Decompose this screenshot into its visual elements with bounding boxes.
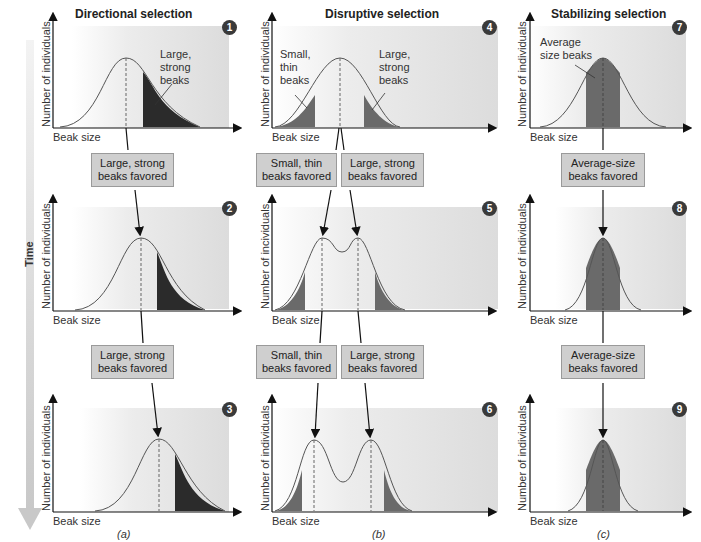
annotation-large-strong-beaks: Large, strong beaks [160, 48, 191, 87]
box-line: beaks favored [257, 362, 336, 375]
caption-b: (b) [372, 528, 385, 540]
caption-c: (c) [597, 528, 610, 540]
selection-diagram [0, 0, 701, 542]
panel-6 [270, 396, 498, 512]
y-axis-label: Number of individuals [40, 21, 52, 127]
box-line: Large, strong [342, 349, 423, 362]
panel-number-badge: 2 [222, 201, 237, 216]
annotation-large-strong-beaks: Large, strong beaks [379, 48, 410, 87]
x-axis-label: Beak size [530, 314, 578, 326]
box-line: beaks favored [92, 170, 173, 183]
annotation-line: thin [280, 61, 311, 74]
y-axis-label: Number of incividuals [259, 204, 271, 309]
annotation-line: beaks [160, 74, 191, 87]
favored-box: Large, strong beaks favored [341, 345, 424, 379]
annotation-line: strong [379, 61, 410, 74]
panel-number-badge: 1 [222, 20, 237, 35]
panel-number-badge: 8 [672, 201, 687, 216]
time-label: Time [23, 241, 35, 266]
title-directional-selection: Directional selection [75, 7, 192, 21]
y-axis-label: Number of individuals [40, 405, 52, 511]
y-axis-label: Number of individuals [516, 21, 528, 127]
box-line: Large, strong [92, 349, 173, 362]
annotation-line: Average [540, 36, 592, 49]
title-disruptive-selection: Disruptive selection [325, 7, 439, 21]
favored-box: Average-size beaks favored [561, 345, 645, 379]
y-axis-label: Number of individuals [516, 203, 528, 309]
box-line: Large, strong [92, 157, 173, 170]
panel-9 [530, 396, 690, 512]
title-stabilizing-selection: Stabilizing selection [551, 7, 666, 21]
annotation-line: beaks [379, 74, 410, 87]
x-axis-label: Beak size [530, 515, 578, 527]
panel-number-badge: 6 [482, 402, 497, 417]
box-line: beaks favored [562, 170, 644, 183]
favored-box: Small, thin beaks favored [256, 345, 337, 379]
panel-number-badge: 3 [222, 402, 237, 417]
box-line: beaks favored [562, 362, 644, 375]
box-line: Average-size [562, 349, 644, 362]
favored-box: Large, strong beaks favored [91, 153, 174, 187]
favored-box: Large, strong beaks favored [341, 153, 424, 187]
favored-box: Average-size beaks favored [561, 153, 645, 187]
annotation-small-thin-beaks: Small, thin beaks [280, 48, 311, 87]
y-axis-label: Number of individuals [40, 203, 52, 309]
panel-number-badge: 9 [672, 402, 687, 417]
panel-8 [530, 196, 690, 311]
panel-2 [53, 196, 240, 311]
favored-box: Large, strong beaks favored [91, 345, 174, 379]
caption-a: (a) [117, 528, 130, 540]
annotation-line: size beaks [540, 49, 592, 62]
box-line: beaks favored [257, 170, 336, 183]
x-axis-label: Beak size [53, 131, 101, 143]
x-axis-label: Beak size [53, 314, 101, 326]
annotation-line: beaks [280, 74, 311, 87]
x-axis-label: Beak size [53, 515, 101, 527]
panel-5 [270, 196, 498, 311]
annotation-average-size-beaks: Average size beaks [540, 36, 592, 62]
x-axis-label: Beak size [272, 131, 320, 143]
box-line: Large, strong [342, 157, 423, 170]
panel-number-badge: 5 [482, 201, 497, 216]
panel-1 [53, 14, 240, 128]
annotation-line: Small, [280, 48, 311, 61]
y-axis-label: Number of individuals [259, 21, 271, 127]
x-axis-label: Beak size [272, 314, 320, 326]
y-axis-label: Number of individuals [516, 405, 528, 511]
panel-number-badge: 7 [672, 20, 687, 35]
box-line: beaks favored [92, 362, 173, 375]
box-line: beaks favored [342, 170, 423, 183]
panel-7 [528, 14, 690, 128]
x-axis-label: Beak size [272, 515, 320, 527]
y-axis-label: Number of individuals [259, 405, 271, 511]
box-line: Small, thin [257, 157, 336, 170]
panel-number-badge: 4 [482, 20, 497, 35]
box-line: Small, thin [257, 349, 336, 362]
time-arrow [18, 40, 42, 530]
box-line: beaks favored [342, 362, 423, 375]
favored-box: Small, thin beaks favored [256, 153, 337, 187]
annotation-line: strong [160, 61, 191, 74]
annotation-line: Large, [160, 48, 191, 61]
box-line: Average-size [562, 157, 644, 170]
x-axis-label: Beak size [530, 131, 578, 143]
annotation-line: Large, [379, 48, 410, 61]
panel-3 [53, 396, 240, 512]
